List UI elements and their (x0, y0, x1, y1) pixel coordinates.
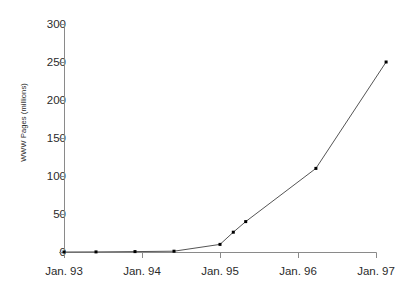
data-point-marker (244, 220, 247, 223)
data-point-marker (134, 250, 137, 253)
y-axis (59, 24, 65, 253)
data-point-marker (63, 251, 66, 254)
x-axis (64, 253, 377, 259)
data-series-www-pages (63, 61, 388, 254)
data-point-marker (314, 167, 317, 170)
chart-container: WWW Pages (millions) 300 250 200 150 100… (0, 0, 406, 295)
data-point-marker (95, 250, 98, 253)
data-point-marker (173, 250, 176, 253)
data-point-marker (219, 243, 222, 246)
data-line (64, 62, 386, 252)
data-point-marker (232, 231, 235, 234)
data-point-marker (385, 61, 388, 64)
plot-area (0, 0, 406, 295)
